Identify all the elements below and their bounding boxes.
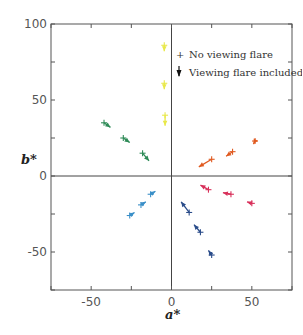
data-point bbox=[162, 112, 168, 126]
y-tick-label: 100 bbox=[24, 17, 47, 31]
plot-axes: -50050-50050100 bbox=[24, 17, 292, 309]
series-yellow bbox=[161, 42, 168, 126]
x-tick-label: -50 bbox=[81, 295, 101, 309]
data-point bbox=[199, 156, 215, 167]
legend-entry-no-flare: + No viewing flare bbox=[176, 49, 273, 60]
series-light-blue bbox=[127, 191, 156, 218]
data-point bbox=[127, 212, 135, 218]
x-axis-title: a* bbox=[165, 307, 180, 322]
data-point bbox=[120, 135, 129, 143]
chart-canvas: -50050-50050100 + No viewing flare Viewi… bbox=[0, 0, 302, 335]
arrow-marker-icon bbox=[223, 191, 228, 196]
data-point bbox=[223, 191, 234, 197]
x-tick-label: 50 bbox=[244, 295, 259, 309]
data-point bbox=[140, 150, 149, 161]
arrow-marker-icon bbox=[162, 84, 167, 89]
series-green bbox=[101, 120, 149, 161]
plus-marker-icon: + bbox=[176, 49, 184, 60]
arrow-marker-icon bbox=[162, 46, 167, 51]
data-point bbox=[247, 200, 255, 206]
y-tick-label: 50 bbox=[32, 93, 47, 107]
data-point bbox=[208, 250, 214, 258]
data-point bbox=[148, 191, 156, 197]
data-point bbox=[252, 138, 258, 144]
data-point bbox=[181, 202, 192, 216]
legend-label-no-flare: No viewing flare bbox=[189, 49, 273, 60]
data-point bbox=[200, 185, 211, 193]
data-point bbox=[161, 42, 167, 51]
data-point bbox=[101, 120, 110, 128]
y-axis-title: b* bbox=[21, 152, 37, 167]
data-point bbox=[194, 225, 203, 236]
data-point bbox=[226, 149, 235, 157]
y-tick-label: 0 bbox=[39, 169, 47, 183]
y-tick-label: -50 bbox=[27, 245, 47, 259]
data-point bbox=[138, 202, 146, 208]
legend: + No viewing flare Viewing flare include… bbox=[176, 49, 302, 78]
data-point bbox=[161, 80, 167, 89]
arrow-marker-icon bbox=[177, 66, 182, 77]
legend-entry-flare: Viewing flare included bbox=[177, 66, 303, 78]
series-orange bbox=[199, 138, 258, 167]
arrow-marker-icon bbox=[163, 121, 168, 126]
series-navy-blue bbox=[181, 202, 215, 258]
legend-label-flare: Viewing flare included bbox=[188, 67, 302, 78]
series-red bbox=[200, 185, 254, 206]
